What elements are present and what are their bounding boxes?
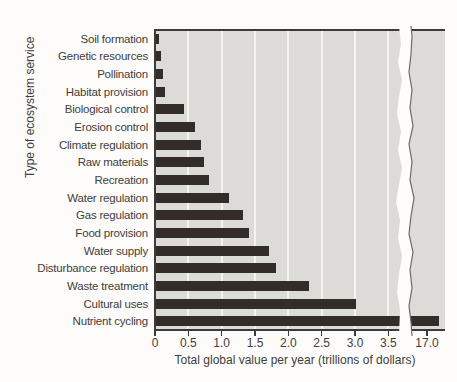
gridline-2.5 xyxy=(321,30,323,330)
category-label: Erosion control xyxy=(0,119,148,135)
category-label: Waste treatment xyxy=(0,278,148,294)
ecosystem-services-bar-chart: Type of ecosystem service Soil formation… xyxy=(0,0,457,382)
category-label: Biological control xyxy=(0,101,148,117)
bar xyxy=(156,69,163,79)
bar xyxy=(156,87,165,97)
bar xyxy=(156,34,159,44)
x-tick-mark xyxy=(221,331,223,336)
x-tick-label: 0 xyxy=(138,337,172,350)
category-label: Recreation xyxy=(0,172,148,188)
x-tick-mark xyxy=(388,331,390,336)
x-tick-mark xyxy=(321,331,323,336)
x-tick-mark xyxy=(188,331,190,336)
x-tick-label: 2.5 xyxy=(305,337,339,350)
category-label: Water regulation xyxy=(0,190,148,206)
x-tick-label: 2.0 xyxy=(271,337,305,350)
bar xyxy=(156,122,195,132)
x-tick-label: 3.5 xyxy=(371,337,405,350)
x-tick-label: 3.0 xyxy=(338,337,372,350)
bar xyxy=(156,175,209,185)
x-tick-mark xyxy=(254,331,256,336)
category-label: Nutrient cycling xyxy=(0,313,148,329)
x-tick-label: 0.5 xyxy=(171,337,205,350)
category-label: Gas regulation xyxy=(0,207,148,223)
x-tick-mark xyxy=(154,331,156,336)
bar xyxy=(156,228,249,238)
bar xyxy=(156,263,276,273)
y-axis-line xyxy=(154,29,156,331)
category-label: Water supply xyxy=(0,243,148,259)
bar xyxy=(156,157,204,167)
category-label: Genetic resources xyxy=(0,48,148,64)
category-label: Pollination xyxy=(0,66,148,82)
bar xyxy=(156,51,161,61)
x-axis-title: Total global value per year (trillions o… xyxy=(145,353,445,367)
category-label: Climate regulation xyxy=(0,137,148,153)
x-tick-mark xyxy=(288,331,290,336)
bar xyxy=(156,246,269,256)
category-label: Raw materials xyxy=(0,154,148,170)
x-tick-mark xyxy=(426,331,428,336)
gridline-3.5 xyxy=(387,30,389,330)
x-tick-label: 17.0 xyxy=(410,337,444,350)
bar xyxy=(156,193,229,203)
category-label: Food provision xyxy=(0,225,148,241)
gridline-3 xyxy=(354,30,356,330)
bar xyxy=(156,140,201,150)
bar xyxy=(156,104,184,114)
category-label: Habitat provision xyxy=(0,84,148,100)
category-label: Disturbance regulation xyxy=(0,260,148,276)
bar xyxy=(156,299,356,309)
x-tick-mark xyxy=(354,331,356,336)
category-label: Cultural uses xyxy=(0,296,148,312)
category-label: Soil formation xyxy=(0,31,148,47)
bar xyxy=(156,210,243,220)
x-tick-label: 1.5 xyxy=(238,337,272,350)
x-tick-label: 1.0 xyxy=(205,337,239,350)
bar xyxy=(156,281,309,291)
axis-break-wavy-gap xyxy=(393,26,419,336)
